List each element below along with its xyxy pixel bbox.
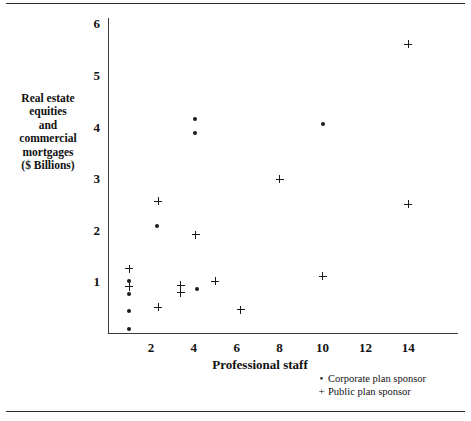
scatter-plot-figure: Real estateequitiesandcommercialmortgage… bbox=[0, 0, 471, 421]
x-tick-label-12: 12 bbox=[353, 341, 377, 354]
plus-marker-icon bbox=[125, 265, 133, 273]
y-axis-label-line-1: equities bbox=[2, 105, 94, 118]
y-axis-label-line-4: mortgages bbox=[2, 146, 94, 159]
top-rule bbox=[6, 3, 465, 4]
plus-marker-icon bbox=[177, 289, 185, 297]
dot-marker-icon bbox=[193, 117, 197, 121]
plus-marker-icon bbox=[404, 200, 412, 208]
plus-marker-icon bbox=[192, 231, 200, 239]
legend-item-1: +Public plan sponsor bbox=[316, 385, 426, 398]
y-tick-label-3: 3 bbox=[78, 172, 100, 185]
y-axis-label-line-3: commercial bbox=[2, 132, 94, 145]
dot-marker-icon bbox=[193, 131, 197, 135]
x-axis-line bbox=[108, 333, 458, 334]
plot-area bbox=[108, 18, 452, 333]
x-tick-label-6: 6 bbox=[225, 341, 249, 354]
legend-item-0: •Corporate plan sponsor bbox=[316, 372, 426, 385]
y-axis-label-line-5: ($ Billions) bbox=[2, 159, 94, 172]
x-tick-label-10: 10 bbox=[311, 341, 335, 354]
x-tick-label-14: 14 bbox=[396, 341, 420, 354]
plus-marker-icon bbox=[404, 40, 412, 48]
x-tick-label-2: 2 bbox=[139, 341, 163, 354]
y-tick-label-6: 6 bbox=[78, 17, 100, 30]
y-tick-label-4: 4 bbox=[78, 121, 100, 134]
x-axis-label: Professional staff bbox=[160, 357, 360, 373]
legend: •Corporate plan sponsor+Public plan spon… bbox=[316, 372, 426, 398]
y-tick-label-1: 1 bbox=[78, 275, 100, 288]
bottom-rule bbox=[6, 411, 465, 412]
dot-marker-icon bbox=[127, 292, 131, 296]
plus-marker-icon bbox=[319, 272, 327, 280]
dot-marker-icon bbox=[195, 287, 199, 291]
x-tick-label-4: 4 bbox=[182, 341, 206, 354]
y-tick-label-5: 5 bbox=[78, 69, 100, 82]
plus-marker-icon bbox=[125, 283, 133, 291]
dot-marker-icon bbox=[127, 327, 131, 331]
legend-item-label: Public plan sponsor bbox=[327, 385, 411, 398]
plus-marker-icon bbox=[237, 306, 245, 314]
dot-marker-icon bbox=[321, 122, 325, 126]
plus-marker-icon bbox=[154, 197, 162, 205]
plus-marker-icon: + bbox=[316, 385, 327, 398]
dot-marker-icon bbox=[155, 224, 159, 228]
dot-marker-icon: • bbox=[316, 372, 327, 385]
plus-marker-icon bbox=[276, 175, 284, 183]
dot-marker-icon bbox=[127, 309, 131, 313]
plus-marker-icon bbox=[154, 303, 162, 311]
legend-item-label: Corporate plan sponsor bbox=[327, 372, 426, 385]
x-tick-label-8: 8 bbox=[268, 341, 292, 354]
plus-marker-icon bbox=[211, 277, 219, 285]
y-axis-label-line-0: Real estate bbox=[2, 92, 94, 105]
y-tick-label-2: 2 bbox=[78, 224, 100, 237]
